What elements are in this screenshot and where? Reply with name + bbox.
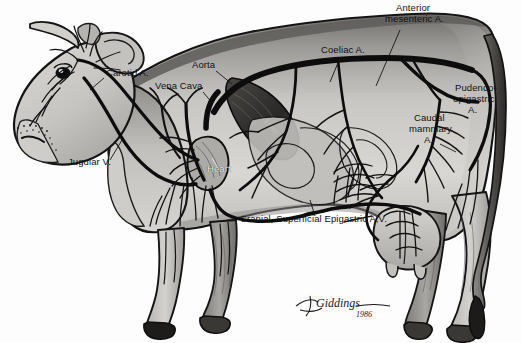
label-aorta: Aorta [192,60,215,71]
illustration-canvas: Liver [0,0,521,343]
label-carotid-artery: Carotid A. [106,68,149,79]
label-cranial-superficial-epigastric: Cranial, Superficial Epigastric A,V. [240,214,387,225]
label-jugular-vein: Jugular V. [68,157,111,168]
artist-signature: Giddings [316,296,360,311]
foreleg-far [202,220,237,325]
hoof-fore-near [144,322,175,339]
label-pudendo-epigastric-line2: epigastric [453,94,495,105]
hoof-fore-far [200,316,230,333]
cow-circulation-diagram: Liver [0,0,521,343]
cow-head-group [14,22,188,232]
signature-year: 1986 [356,310,372,319]
label-caudal-mammary-line1: Caudal [414,113,445,124]
hoof-hind-far [404,322,432,339]
label-caudal-mammary-line2: mammary [409,124,452,135]
label-anterior-mesenteric-line2: mesenteric A. [385,14,444,25]
label-anterior-mesenteric-line1: Anterior [396,3,430,14]
label-coeliac-artery: Coeliac A. [321,45,365,56]
horn [30,22,79,48]
label-pudendo-epigastric-line3: A. [468,105,477,116]
label-vena-cava: Vena Cava [155,81,202,92]
label-heart: Heart [207,164,231,175]
label-pudendo-epigastric-line1: Pudendo- [455,83,497,94]
label-caudal-mammary-line3: A. [424,135,433,146]
